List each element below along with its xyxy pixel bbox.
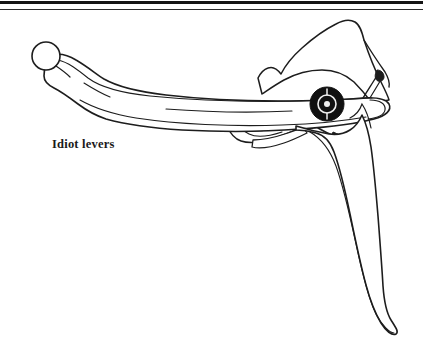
- page-root: Idiot levers: [0, 0, 423, 339]
- lever-blade: [296, 115, 397, 334]
- mount-pivot-node: [375, 70, 384, 81]
- figure-caption: Idiot levers: [52, 137, 114, 152]
- brake-lever-illustration: [0, 0, 423, 339]
- barrel-adjuster-center: [324, 101, 330, 107]
